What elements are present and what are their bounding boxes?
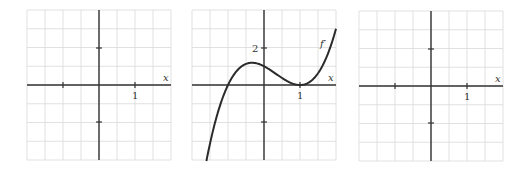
- y-tick-label-2: 2: [252, 43, 258, 54]
- panel-left: x 1: [27, 10, 171, 160]
- panel-middle: x 1 2 f′: [192, 10, 336, 161]
- curve-label-f-prime: f′: [319, 38, 327, 49]
- x-tick-label-1: 1: [132, 90, 138, 101]
- figure-stage: x 1 x 1 2 f′ x 1: [0, 0, 530, 171]
- x-tick-label-1: 1: [464, 91, 470, 102]
- x-axis-label: x: [495, 73, 501, 84]
- panel-right: x 1: [359, 11, 503, 161]
- x-axis-label: x: [328, 72, 334, 83]
- x-tick-label-1: 1: [297, 90, 303, 101]
- x-axis-label: x: [163, 72, 169, 83]
